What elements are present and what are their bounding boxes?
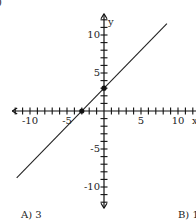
y-tick-label-5: 5 (94, 67, 100, 78)
answer-choice-b[interactable]: B) 1 (178, 209, 196, 220)
x-tick-label-neg10: -10 (22, 115, 38, 126)
x-tick-label-5: 5 (138, 115, 144, 126)
graph-line (17, 24, 167, 178)
x-tick-label-neg5: -5 (62, 115, 72, 126)
coordinate-plane: -10 -5 5 10 x 10 5 -5 -10 y (0, 0, 196, 220)
y-tick-label-neg10: -10 (84, 181, 100, 192)
y-axis-label: y (107, 16, 114, 27)
x-tick-label-10: 10 (172, 115, 185, 126)
answer-choice-a[interactable]: A) 3 (21, 209, 42, 220)
x-axis-label: x (192, 115, 196, 126)
y-tick-label-neg5: -5 (90, 143, 100, 154)
y-tick-label-10: 10 (87, 29, 100, 40)
